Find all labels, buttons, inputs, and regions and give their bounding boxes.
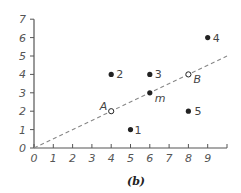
point-2	[109, 72, 114, 77]
hollow-point-A	[109, 109, 114, 114]
x-tick-label: 1	[50, 152, 57, 165]
x-tick-label: 3	[88, 152, 95, 165]
point-label-5: 5	[194, 105, 201, 118]
x-tick-label: 5	[127, 152, 134, 165]
y-tick-label: 3	[19, 87, 26, 100]
axes: 012345678901234567	[19, 13, 227, 165]
point-1	[128, 127, 133, 132]
x-tick-label: 4	[108, 152, 115, 165]
point-label-1: 1	[135, 124, 142, 137]
x-tick-label: 2	[69, 152, 76, 165]
point-4	[205, 35, 210, 40]
figure-caption: (b)	[127, 175, 145, 188]
y-tick-label: 5	[19, 50, 26, 63]
y-tick-label: 0	[19, 142, 26, 155]
point-label-4: 4	[213, 32, 220, 45]
point-label-2: 2	[116, 68, 123, 81]
dashed-trend-line	[34, 56, 227, 148]
x-tick-label: 8	[185, 152, 192, 165]
x-tick-label: 9	[204, 152, 211, 165]
point-3	[147, 72, 152, 77]
point-label-B: B	[193, 73, 201, 86]
point-label-3: 3	[155, 68, 162, 81]
hollow-point-B	[186, 72, 191, 77]
x-tick-label: 7	[166, 152, 173, 165]
y-tick-label: 2	[19, 105, 26, 118]
x-tick-label: 6	[146, 152, 153, 165]
y-tick-label: 1	[19, 124, 26, 137]
point-label-A: A	[99, 100, 108, 113]
y-tick-label: 6	[19, 32, 26, 45]
point-label-m: m	[155, 92, 166, 105]
data-points: 12345AmB	[99, 32, 220, 137]
scatter-chart: 012345678901234567 12345AmB (b)	[0, 0, 241, 193]
point-m	[147, 90, 152, 95]
x-tick-label: 0	[31, 152, 38, 165]
y-tick-label: 7	[19, 13, 26, 26]
y-tick-label: 4	[19, 68, 26, 81]
dashed-line	[34, 56, 227, 148]
point-5	[186, 109, 191, 114]
